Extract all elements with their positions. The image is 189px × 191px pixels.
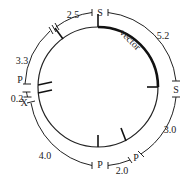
- site-label-s-right: S: [173, 84, 179, 95]
- site-label-s-top: S: [97, 7, 103, 18]
- segment-label-4-0: 4.0: [39, 150, 52, 161]
- site-label-p-lower-right: P: [133, 152, 139, 163]
- vector-label: vector: [118, 27, 144, 53]
- segment-label-2-5: 2.5: [67, 9, 80, 20]
- segment-label-5-2: 5.2: [157, 30, 170, 41]
- inner-tick-lower-right: [121, 128, 126, 141]
- segment-label-0-2: 0.2: [11, 93, 24, 104]
- segment-label-3-0: 3.0: [164, 124, 177, 135]
- segment-label-3-3: 3.3: [16, 55, 29, 66]
- site-label-p-bottom: P: [97, 159, 103, 170]
- plasmid-map-diagram: S S P P P X 2.5 5.2 3.0 2.0 4.0 0.2 3.3 …: [0, 0, 189, 191]
- segment-label-2-0: 2.0: [116, 165, 129, 176]
- site-label-p-left: P: [17, 74, 23, 85]
- inner-tick-left-1: [38, 82, 52, 85]
- inner-tick-left-2: [38, 90, 52, 93]
